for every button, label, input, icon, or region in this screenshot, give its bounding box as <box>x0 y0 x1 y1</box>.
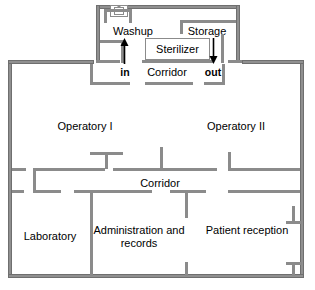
wall-stub-left-v <box>33 168 36 190</box>
wall-stub-center-down <box>160 147 163 169</box>
wall-building-bottom <box>8 274 304 278</box>
wall-midcorridor-top-left <box>33 168 105 171</box>
wall-stub-right-lower-cap <box>286 262 302 265</box>
wall-building-top-right <box>242 60 304 64</box>
wall-midcorridor-bot-d <box>170 190 206 193</box>
room-label-operatory-2: Operatory II <box>207 120 265 133</box>
wall-corridor-floor-mid <box>145 82 193 85</box>
room-label-sterilizer: Sterilizer <box>156 43 199 55</box>
wall-admin-reception-divider <box>185 190 188 218</box>
wall-stub-op1-down-cap <box>90 152 123 155</box>
wall-op1-partition-h <box>90 82 112 85</box>
room-label-corridor-top: Corridor <box>147 66 187 79</box>
room-label-reception: Patient reception <box>197 224 297 237</box>
room-label-operatory-1: Operatory I <box>57 120 112 133</box>
wall-admin-reception-divider-lower <box>185 262 188 276</box>
floor-plan-diagram: Washup Storage Sterilizer in Corridor <box>0 0 315 290</box>
wall-building-right <box>300 60 304 278</box>
wall-op2-partition-h <box>204 82 225 85</box>
room-sterilizer: Sterilizer <box>145 38 210 60</box>
wall-building-top-left <box>8 60 94 64</box>
room-label-administration: Administration and records <box>89 224 189 249</box>
wall-annex-left <box>96 5 100 63</box>
wall-corridor-top-seg-right <box>228 60 242 63</box>
wall-stub-op2-down <box>228 152 231 169</box>
wall-washup-partition-top <box>104 9 132 12</box>
wall-annex-right <box>236 5 240 63</box>
room-label-corridor-mid: Corridor <box>140 177 180 190</box>
room-label-washup: Washup <box>113 25 153 38</box>
wall-washup-partition-right <box>129 9 132 23</box>
wall-stub-center-cap <box>142 168 182 171</box>
arrow-down-icon <box>208 38 219 64</box>
flow-label-in: in <box>120 66 129 79</box>
arrow-up-icon <box>119 38 130 64</box>
room-label-laboratory: Laboratory <box>24 230 77 243</box>
wall-midcorridor-bot-c <box>74 190 152 193</box>
wall-storage-inner-right <box>221 34 224 63</box>
wall-stub-left-upper <box>12 168 26 171</box>
wall-midcorridor-bot-b <box>33 190 61 193</box>
flow-label-out: out <box>205 66 221 79</box>
wall-corridor-top-seg-left <box>96 60 120 63</box>
wall-midcorridor-bot-e <box>228 190 300 193</box>
wall-stub-right-upper-cap <box>286 221 302 224</box>
wall-corridor-top-seg-mid <box>142 60 214 63</box>
wall-midcorridor-bot-a <box>12 190 24 193</box>
wall-midcorridor-top-right <box>228 168 300 171</box>
wall-storage-partition-top <box>180 20 236 23</box>
